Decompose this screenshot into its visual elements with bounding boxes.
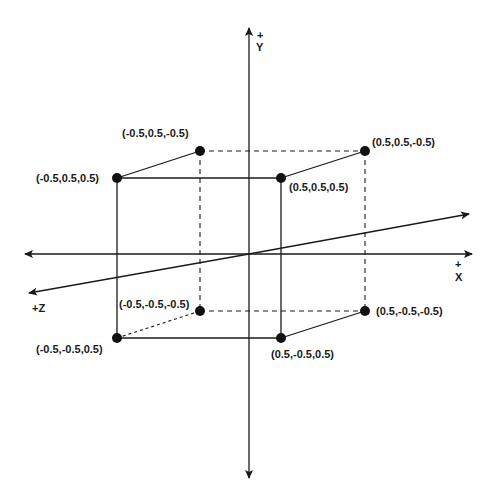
vertex-label: (-0.5,0.5,0.5) <box>36 172 99 184</box>
cube-coordinate-diagram: + Y + X +Z <box>0 0 498 504</box>
z-axis-label: +Z <box>32 302 45 314</box>
z-axis-negative <box>249 214 469 254</box>
vertex-dot <box>276 173 286 183</box>
vertex-label: (-0.5,0.5,-0.5) <box>122 127 189 139</box>
x-axis-plus: + <box>455 258 461 270</box>
vertex-label: (0.5,-0.5,0.5) <box>271 348 334 360</box>
vertex-dot <box>112 173 122 183</box>
vertex-dot <box>276 333 286 343</box>
y-axis-plus: + <box>257 29 263 41</box>
vertex-dot <box>112 333 122 343</box>
vertex-label: (-0.5,-0.5,0.5) <box>36 343 103 355</box>
axes <box>25 28 472 478</box>
vertex-dot <box>360 146 370 156</box>
diagram-svg: + Y + X +Z <box>0 0 498 504</box>
vertices <box>112 146 370 343</box>
hidden-edge-diagonal <box>117 311 200 338</box>
vertex-label: (0.5,-0.5,-0.5) <box>376 305 443 317</box>
vertex-label: (0.5,0.5,-0.5) <box>372 136 435 148</box>
vertex-dot <box>195 146 205 156</box>
z-axis <box>29 254 249 293</box>
vertex-dot <box>195 306 205 316</box>
vertex-label: (-0.5,-0.5,-0.5) <box>119 298 190 310</box>
x-axis-label: X <box>455 271 463 283</box>
y-axis-label: Y <box>256 41 264 53</box>
vertex-label: (0.5,0.5,0.5) <box>289 181 349 193</box>
vertex-dot <box>360 306 370 316</box>
